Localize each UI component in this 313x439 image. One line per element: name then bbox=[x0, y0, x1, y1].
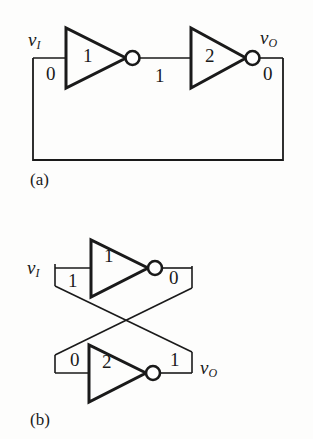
panel-b-output-variable-label: vO bbox=[200, 358, 217, 377]
panel-a-inverter-1-label: 1 bbox=[83, 46, 93, 65]
panel-b-bottom-input-value: 0 bbox=[70, 350, 80, 369]
panel-a-output-variable-label: vO bbox=[260, 28, 277, 47]
panel-b-inverter-1-label: 1 bbox=[104, 246, 114, 265]
panel-b-inverter-1-triangle bbox=[91, 240, 148, 297]
panel-b-inverter-2-bubble bbox=[146, 366, 160, 380]
panel-b-inverter-2-label: 2 bbox=[102, 352, 112, 371]
panel-b-top-output-value: 0 bbox=[169, 268, 179, 287]
panel-a-inverter-1-bubble bbox=[126, 51, 140, 65]
panel-b-top-input-value: 1 bbox=[68, 271, 78, 290]
panel-b-cross-wire-bottom-to-top bbox=[55, 286, 192, 352]
panel-a-caption: (a) bbox=[30, 171, 49, 188]
panel-a-inverter-2-bubble bbox=[246, 51, 260, 65]
panel-a-interstage-value: 1 bbox=[155, 66, 165, 85]
panel-a-inverter-2-triangle bbox=[191, 28, 246, 88]
bistable-latch-figure: vI 0 1 1 2 vO 0 (a) vI 1 1 0 0 2 1 vO (b… bbox=[0, 0, 313, 439]
panel-b-cross-wire-top-to-bottom bbox=[55, 288, 192, 355]
panel-b-schematic bbox=[55, 240, 192, 402]
panel-a-input-value: 0 bbox=[46, 64, 56, 83]
panel-b-input-variable-label: vI bbox=[27, 258, 39, 277]
panel-a-inverter-1-triangle bbox=[66, 28, 126, 88]
panel-b-caption: (b) bbox=[30, 411, 50, 428]
panel-a-input-variable-label: vI bbox=[28, 30, 40, 49]
panel-b-bottom-output-value: 1 bbox=[170, 350, 180, 369]
panel-a-inverter-2-label: 2 bbox=[205, 46, 215, 65]
panel-b-inverter-2-triangle bbox=[89, 345, 146, 402]
panel-a-schematic bbox=[33, 28, 283, 160]
panel-a-output-value: 0 bbox=[263, 64, 273, 83]
panel-b-inverter-1-bubble bbox=[148, 261, 162, 275]
